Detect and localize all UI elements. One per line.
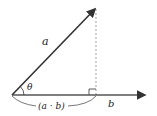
projection-brace <box>12 96 36 106</box>
right-angle-marker <box>89 89 96 95</box>
vector-a-arrow <box>12 9 95 95</box>
angle-arc <box>20 86 24 95</box>
projection-brace-right <box>68 96 96 106</box>
label-a: a <box>42 35 49 48</box>
label-theta: θ <box>27 82 33 92</box>
projection-diagram: a θ b (a · b) <box>0 0 157 116</box>
label-b: b <box>108 98 114 109</box>
label-projection: (a · b) <box>38 101 65 111</box>
